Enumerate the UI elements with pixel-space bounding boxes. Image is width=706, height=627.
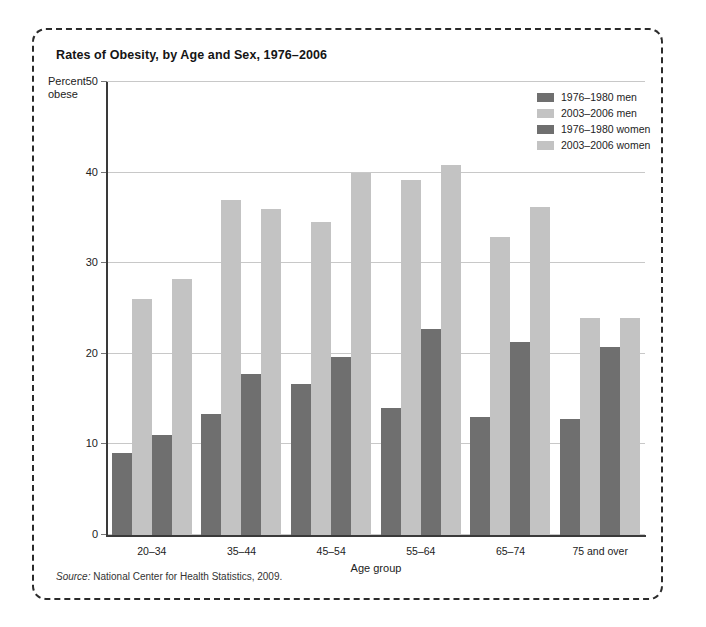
x-tick-label: 55–64 [376, 545, 466, 557]
bar-group: 65–74 [466, 82, 556, 535]
source-prefix: Source: [56, 571, 90, 582]
bar-group: 55–64 [376, 82, 466, 535]
y-axis-title-line2: obese [48, 88, 108, 101]
bar [172, 279, 192, 535]
x-tick-label: 20–34 [107, 545, 197, 557]
bar [620, 318, 640, 535]
bar [201, 414, 221, 535]
bar-group: 75 and over [555, 82, 645, 535]
y-tick-label-10: 10 [86, 437, 98, 449]
bar [241, 374, 261, 535]
y-axis-line [106, 82, 108, 535]
y-tick-label-30: 30 [86, 256, 98, 268]
source-note: Source: National Center for Health Stati… [56, 571, 282, 582]
plot-inner: 01020304050 20–3435–4445–5455–6465–7475 … [107, 82, 645, 535]
bar [421, 329, 441, 535]
x-axis-line [106, 535, 646, 537]
bar [152, 435, 172, 535]
bar [401, 180, 421, 535]
bar [600, 347, 620, 535]
bar [441, 165, 461, 535]
x-tick-label: 45–54 [286, 545, 376, 557]
bar [291, 384, 311, 535]
y-tick-label-40: 40 [86, 166, 98, 178]
bar-group: 20–34 [107, 82, 197, 535]
bar [580, 318, 600, 535]
x-tick-label: 75 and over [555, 545, 645, 557]
bar [261, 209, 281, 535]
figure-panel: Rates of Obesity, by Age and Sex, 1976–2… [32, 28, 663, 600]
y-axis-title-line1: Percent [48, 75, 108, 88]
source-text: National Center for Health Statistics, 2… [93, 571, 282, 582]
bar [112, 453, 132, 535]
x-tick-label: 65–74 [466, 545, 556, 557]
bar [530, 207, 550, 535]
bar [560, 419, 580, 535]
chart-title: Rates of Obesity, by Age and Sex, 1976–2… [56, 48, 327, 62]
bar [351, 173, 371, 535]
y-axis-title: Percent obese [48, 75, 108, 101]
bar [311, 222, 331, 535]
y-tick-label-50: 50 [86, 75, 98, 87]
bar [132, 299, 152, 535]
plot-area: 01020304050 20–3435–4445–5455–6465–7475 … [107, 82, 645, 535]
bar [490, 237, 510, 535]
bar [381, 408, 401, 535]
bar-group: 45–54 [286, 82, 376, 535]
y-tick-label-20: 20 [86, 347, 98, 359]
y-tick-label-0: 0 [92, 528, 98, 540]
x-tick-label: 35–44 [197, 545, 287, 557]
bar [470, 417, 490, 535]
bar [510, 342, 530, 535]
bar [221, 200, 241, 535]
bar-group: 35–44 [197, 82, 287, 535]
bar [331, 357, 351, 535]
